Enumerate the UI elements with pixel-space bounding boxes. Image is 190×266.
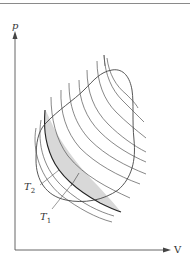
- t2-sub: 2: [31, 187, 35, 195]
- t1-main: T: [40, 211, 47, 222]
- t1-sub: 1: [47, 217, 51, 225]
- p-axis-label: p: [12, 21, 18, 31]
- p-axis-arrow-icon: [13, 31, 18, 39]
- v-axis-arrow-icon: [163, 248, 171, 253]
- v-axis-label: V: [174, 245, 181, 255]
- t2-label: T2: [24, 182, 35, 196]
- t1-label: T1: [40, 212, 51, 226]
- pv-diagram: [0, 0, 190, 266]
- axes: [15, 36, 166, 250]
- t2-main: T: [24, 181, 31, 192]
